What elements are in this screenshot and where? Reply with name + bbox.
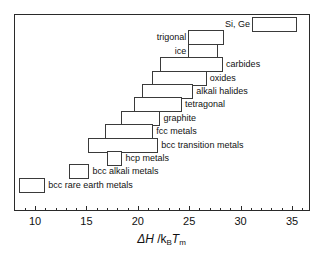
x-tick-major [241,206,242,211]
x-tick-minor [148,208,149,211]
chart-root: Si, Getrigonalicecarbidesoxidesalkali ha… [0,0,323,265]
x-tick-label: 35 [277,215,307,227]
x-tick-minor [76,208,77,211]
x-tick-minor [107,208,108,211]
x-tick-label: 10 [20,215,50,227]
x-tick-minor [25,208,26,211]
x-tick-minor [251,208,252,211]
x-tick-minor [230,208,231,211]
x-tick-minor [199,208,200,211]
x-tick-minor [169,208,170,211]
x-tick-label: 30 [226,215,256,227]
axis-title-slash-k: /k [154,232,167,246]
x-tick-major [35,206,36,211]
axis-title-sub-m: m [179,238,186,247]
x-tick-minor [282,208,283,211]
x-axis-title: ΔH /kBTm [0,232,323,247]
x-tick-label: 20 [123,215,153,227]
x-tick-minor [158,208,159,211]
x-tick-label: 25 [174,215,204,227]
x-tick-minor [56,208,57,211]
plot-frame [14,14,310,211]
x-tick-major [292,206,293,211]
x-tick-minor [210,208,211,211]
x-tick-minor [261,208,262,211]
x-tick-minor [220,208,221,211]
x-tick-minor [117,208,118,211]
x-tick-minor [271,208,272,211]
x-tick-major [189,206,190,211]
x-tick-minor [66,208,67,211]
x-tick-minor [179,208,180,211]
x-tick-minor [45,208,46,211]
x-tick-major [138,206,139,211]
x-tick-major [86,206,87,211]
axis-title-delta-h: ΔH [137,232,154,246]
x-tick-label: 15 [71,215,101,227]
x-tick-minor [97,208,98,211]
x-tick-minor [302,208,303,211]
x-tick-minor [128,208,129,211]
